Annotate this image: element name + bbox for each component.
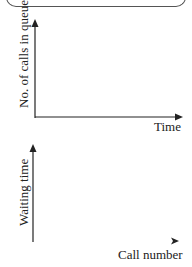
top-y-axis-label: No. of calls in queue xyxy=(16,0,32,108)
bottom-x-axis-label: Call number xyxy=(118,247,183,263)
top-y-arrow-icon xyxy=(32,19,39,27)
top-x-axis-label: Time xyxy=(154,119,181,135)
top-chart-axes xyxy=(32,19,184,121)
bottom-y-arrow-icon xyxy=(30,144,37,152)
bottom-y-axis-label: Waiting time xyxy=(16,159,32,226)
bottom-chart-axes xyxy=(30,144,180,245)
bottom-x-arrow-icon xyxy=(171,238,179,245)
